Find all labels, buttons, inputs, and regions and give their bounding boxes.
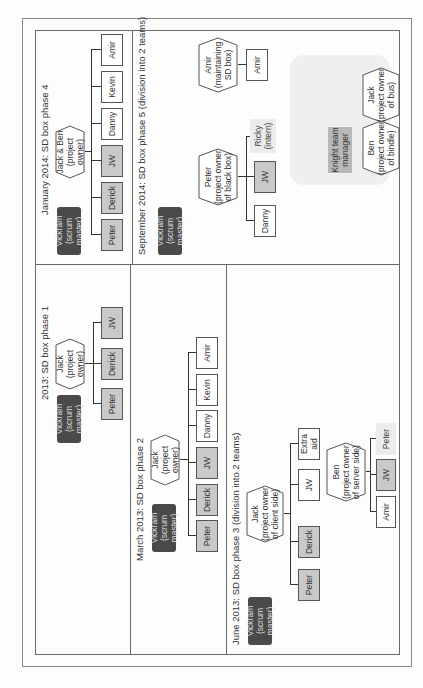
member-box: Derick: [101, 348, 123, 380]
phase-4-panel: January 2014: SD box phase 4 Vickram (sc…: [35, 30, 132, 265]
phase-2-title: March 2013: SD box phase 2: [134, 438, 145, 561]
member-box: Danny: [101, 108, 123, 140]
manager-label: Knight team: [330, 127, 340, 172]
owner-role: (project owner): [160, 434, 180, 486]
member-box: Amir: [101, 34, 123, 66]
connector-drop: [91, 49, 101, 50]
connector-trunk: [85, 363, 93, 364]
owner-name: Ben: [331, 445, 341, 499]
owner-role: (project owner: [260, 487, 270, 541]
connector-drop: [188, 462, 196, 463]
owner-name: Jack & Ben: [55, 125, 65, 179]
maintainer-role: (maintaining: [213, 42, 223, 88]
phase-5-title: September 2014: SD box phase 5 (division…: [136, 17, 147, 255]
bindle-owner-hexagon: Ben(project ownerof bindle): [362, 120, 400, 176]
manager-label: manager: [340, 133, 350, 167]
member-box: JW: [254, 161, 276, 193]
connector-drop: [91, 234, 101, 235]
member-box: Derick: [298, 526, 320, 558]
connector-drop: [91, 197, 101, 198]
owner-role: (project owner: [376, 121, 386, 175]
member-box: JW: [196, 447, 218, 479]
member-box: JW: [101, 145, 123, 177]
member-box: JW: [376, 459, 396, 491]
scrum-master-name: Vickram: [54, 216, 64, 247]
member-box: Kevin: [101, 71, 123, 103]
maintainer-hexagon: Amir(maintainingSD box): [198, 37, 238, 93]
scrum-master-role: (scrum master): [165, 207, 185, 255]
connector-drop: [91, 123, 101, 124]
scrum-master-name: Vickram: [149, 513, 159, 544]
owner-role: (project owner): [65, 125, 85, 179]
connector-drop: [93, 403, 101, 404]
connector-drop: [246, 220, 254, 221]
owner-role: of bindle): [386, 121, 396, 175]
connector-trunk: [180, 459, 188, 460]
member-box: Amir: [376, 496, 396, 528]
client-owner-hexagon: Jack(project ownerof client side): [246, 485, 284, 543]
member-box: Peter: [376, 423, 396, 455]
project-owner-hexagon: Jack & Ben(project owner): [55, 125, 85, 179]
member-box: Danny: [254, 205, 276, 237]
connector-bus: [91, 50, 92, 235]
member-box: JW: [298, 469, 320, 501]
bus-owner-hexagon: Jack(project ownerof bus): [362, 67, 400, 123]
member-box: JW: [101, 307, 123, 339]
scrum-master-box: Vickram (scrum master): [152, 504, 176, 552]
phase-3-panel: June 2013: SD box phase 3 (division into…: [226, 265, 400, 655]
scrum-master-box: Vickram (scrum master): [248, 597, 272, 645]
connector-drop: [188, 352, 196, 353]
connector-drop: [290, 484, 298, 485]
owner-name: Jack: [250, 487, 260, 541]
maintainer-name: Amir: [203, 42, 213, 88]
connector-bus: [188, 353, 189, 536]
knight-team-manager-box: Knight team manager: [328, 127, 352, 173]
owner-role: of client side): [270, 487, 280, 541]
maintainer-role: SD box): [223, 42, 233, 88]
intern-box: Ricky (intern): [250, 119, 276, 153]
scrum-master-name: Vickram: [155, 216, 165, 247]
blackbox-owner-hexagon: Peter(project ownerof black box): [198, 148, 238, 206]
scrum-master-role: (scrum master): [255, 597, 275, 645]
connector-drop: [290, 443, 298, 444]
connector-drop: [91, 86, 101, 87]
scrum-master-name: Vickram: [245, 606, 255, 637]
owner-name: Jack: [366, 68, 376, 122]
connector-drop: [290, 584, 298, 585]
connector-drop: [188, 425, 196, 426]
owner-name: Jack: [55, 338, 65, 390]
member-box: Extra aid: [298, 428, 320, 460]
phase-1-panel: 2013: SD box phase 1 Vickram (scrum mast…: [35, 265, 130, 655]
project-owner-hexagon: Jack(project owner): [55, 338, 85, 390]
connector-trunk: [238, 176, 246, 177]
connector-bus: [246, 137, 247, 221]
owner-role: (project owner: [213, 150, 223, 204]
member-box: Amir: [246, 49, 268, 81]
connector-drop: [246, 176, 254, 177]
owner-name: Ben: [366, 121, 376, 175]
knight-team-group: Knight team manager Ben(project ownerof …: [290, 55, 390, 185]
connector-drop: [93, 322, 101, 323]
owner-role: of bus): [386, 68, 396, 122]
member-box: Peter: [298, 569, 320, 601]
scrum-master-role: (scrum master): [64, 395, 84, 443]
member-box: Kevin: [196, 374, 218, 406]
member-box: Derick: [196, 484, 218, 516]
scrum-master-role: (scrum master): [64, 207, 84, 255]
scrum-master-box: Vickram (scrum master): [158, 207, 182, 255]
scrum-master-name: Vickram: [54, 404, 64, 435]
phase-5-panel: September 2014: SD box phase 5 (division…: [132, 30, 400, 265]
member-box: Peter: [101, 219, 123, 251]
scrum-master-box: Vickram (scrum master): [57, 395, 81, 443]
member-box: Peter: [101, 388, 123, 420]
project-owner-hexagon: Jack(project owner): [150, 434, 180, 486]
connector-drop: [188, 389, 196, 390]
owner-role: (project owner: [376, 68, 386, 122]
owner-name: Jack: [150, 434, 160, 486]
connector-drop: [91, 160, 101, 161]
scrum-master-role: (scrum master): [159, 504, 179, 552]
intern-role: (intern): [263, 123, 273, 150]
connector-drop: [93, 363, 101, 364]
member-box: Danny: [196, 410, 218, 442]
connector-bus: [290, 443, 291, 585]
